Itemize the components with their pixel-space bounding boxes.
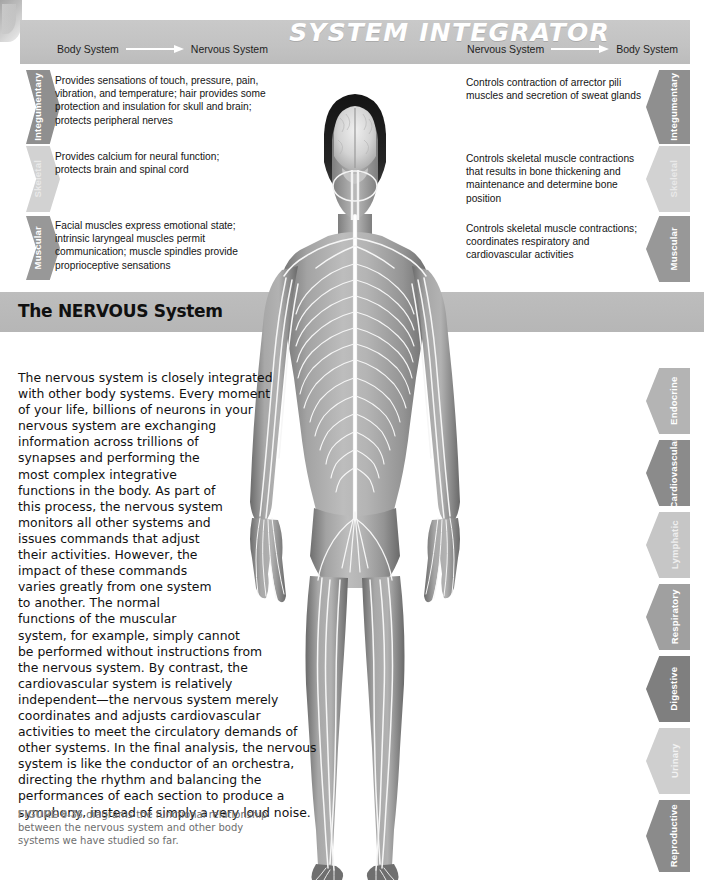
system-tab-skeletal-right[interactable]: Skeletal xyxy=(646,146,690,212)
body-paragraph-line: coordinates and adjusts cardiovascular xyxy=(18,708,286,724)
system-tab-label: Digestive xyxy=(669,667,679,711)
flow-nervous-to-body: Nervous System Body System xyxy=(467,43,678,55)
system-tab-digestive[interactable]: Digestive xyxy=(646,656,690,722)
body-paragraph-line: impact of these commands xyxy=(18,563,286,579)
figure-caption: FIGURE 8-36 diagrams the functional rela… xyxy=(18,808,278,847)
body-paragraph-line: synapses and performing the xyxy=(18,450,286,466)
body-paragraph-line: monitors all other systems and xyxy=(18,515,286,531)
body-paragraph-line: their activities. However, the xyxy=(18,547,286,563)
body-paragraph-line: directing the rhythm and balancing the xyxy=(18,772,286,788)
flow-body-to-nervous: Body System Nervous System xyxy=(57,43,268,55)
system-tab-label: Skeletal xyxy=(669,160,679,198)
body-paragraph-line: most complex integrative xyxy=(18,467,286,483)
system-tab-label: Skeletal xyxy=(33,160,43,198)
arrow-right-icon xyxy=(551,45,609,53)
flow-right-source: Nervous System xyxy=(467,43,544,55)
right-description-skeletal: Controls skeletal muscle contractions th… xyxy=(466,152,646,205)
body-paragraph-line: The nervous system is closely integrated xyxy=(18,370,286,386)
system-tab-urinary[interactable]: Urinary xyxy=(646,728,690,794)
arrow-right-icon xyxy=(126,45,184,53)
body-paragraph-line: cardiovascular system is relatively xyxy=(18,676,286,692)
page-curl-artifact xyxy=(0,0,22,42)
body-paragraph-line: system is like the conductor of an orche… xyxy=(18,756,286,772)
left-description-skeletal: Provides calcium for neural function; pr… xyxy=(55,150,255,176)
system-tab-label: Muscular xyxy=(33,226,43,269)
body-paragraph-line: information across trillions of xyxy=(18,434,286,450)
body-paragraph-line: other systems. In the final analysis, th… xyxy=(18,740,286,756)
system-tab-label: Integumentary xyxy=(33,73,43,141)
system-tab-integumentary-right[interactable]: Integumentary xyxy=(646,70,690,144)
body-paragraph-line: this process, the nervous system xyxy=(18,499,286,515)
system-tab-label: Cardiovascular xyxy=(669,437,679,508)
system-tab-muscular-right[interactable]: Muscular xyxy=(646,216,690,282)
body-paragraph-line: activities to meet the circulatory deman… xyxy=(18,724,286,740)
body-paragraph-line: to another. The normal xyxy=(18,595,286,611)
system-tab-respiratory[interactable]: Respiratory xyxy=(646,584,690,650)
system-tab-endocrine[interactable]: Endocrine xyxy=(646,368,690,434)
body-paragraph-line: performances of each section to produce … xyxy=(18,788,286,804)
system-tab-lymphatic[interactable]: Lymphatic xyxy=(646,512,690,578)
body-paragraph-line: with other body systems. Every moment xyxy=(18,386,286,402)
right-description-integumentary: Controls contraction of arrector pili mu… xyxy=(466,76,646,102)
figure-number: FIGURE 8-36 xyxy=(18,809,83,820)
body-paragraph-line: the nervous system. By contrast, the xyxy=(18,660,286,676)
system-tab-label: Reproductive xyxy=(669,804,679,867)
body-paragraph-line: be performed without instructions from xyxy=(18,644,286,660)
body-paragraph-line: functions in the body. As part of xyxy=(18,483,286,499)
body-paragraph: The nervous system is closely integrated… xyxy=(18,370,286,821)
system-tab-label: Endocrine xyxy=(669,377,679,425)
flow-left-target: Nervous System xyxy=(191,43,268,55)
body-paragraph-line: nervous system are exchanging xyxy=(18,418,286,434)
system-tab-reproductive[interactable]: Reproductive xyxy=(646,800,690,872)
right-description-muscular: Controls skeletal muscle contractions; c… xyxy=(466,222,646,262)
system-tab-label: Integumentary xyxy=(669,73,679,141)
body-paragraph-line: varies greatly from one system xyxy=(18,579,286,595)
figure-page: SYSTEM INTEGRATOR Body System Nervous Sy… xyxy=(0,0,704,880)
body-paragraph-line: functions of the muscular xyxy=(18,611,286,627)
flow-row: Body System Nervous System Nervous Syste… xyxy=(20,43,690,59)
flow-right-target: Body System xyxy=(616,43,678,55)
system-tab-label: Urinary xyxy=(669,744,679,779)
body-paragraph-line: issues commands that adjust xyxy=(18,531,286,547)
flow-left-source: Body System xyxy=(57,43,119,55)
left-description-muscular: Facial muscles express emotional state; … xyxy=(55,219,250,272)
system-tab-label: Lymphatic xyxy=(669,521,679,570)
body-paragraph-line: independent—the nervous system merely xyxy=(18,692,286,708)
system-tab-label: Muscular xyxy=(669,227,679,270)
section-title: The NERVOUS System xyxy=(18,301,223,321)
system-tab-label: Respiratory xyxy=(669,590,679,645)
left-description-integumentary: Provides sensations of touch, pressure, … xyxy=(55,74,270,127)
system-tab-cardiovascular[interactable]: Cardiovascular xyxy=(646,440,690,506)
body-paragraph-line: system, for example, simply cannot xyxy=(18,628,286,644)
system-integrator-header: SYSTEM INTEGRATOR Body System Nervous Sy… xyxy=(20,20,690,64)
body-paragraph-line: of your life, billions of neurons in you… xyxy=(18,402,286,418)
